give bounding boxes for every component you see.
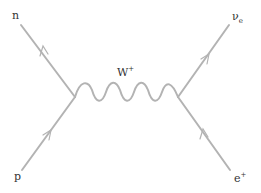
label-neutron: n (12, 10, 19, 21)
proton-symbol: p (14, 170, 21, 183)
feynman-diagram: n p W+ νe e+ (0, 0, 261, 193)
neutron-symbol: n (12, 9, 19, 22)
label-w-boson: W+ (117, 66, 134, 78)
neutron-line (21, 25, 75, 97)
diagram-lines (0, 0, 261, 193)
positron-line (178, 97, 230, 170)
w-symbol: W (117, 66, 128, 79)
positron-charge: + (241, 171, 247, 179)
label-positron: e+ (234, 172, 246, 184)
label-neutrino: νe (232, 11, 243, 25)
w-boson-wavy-line (75, 83, 178, 101)
nu-flavor: e (239, 17, 243, 25)
label-proton: p (14, 171, 21, 182)
proton-line (22, 97, 75, 170)
nu-symbol: ν (232, 10, 239, 23)
w-charge: + (128, 65, 134, 73)
neutrino-line (178, 25, 229, 97)
